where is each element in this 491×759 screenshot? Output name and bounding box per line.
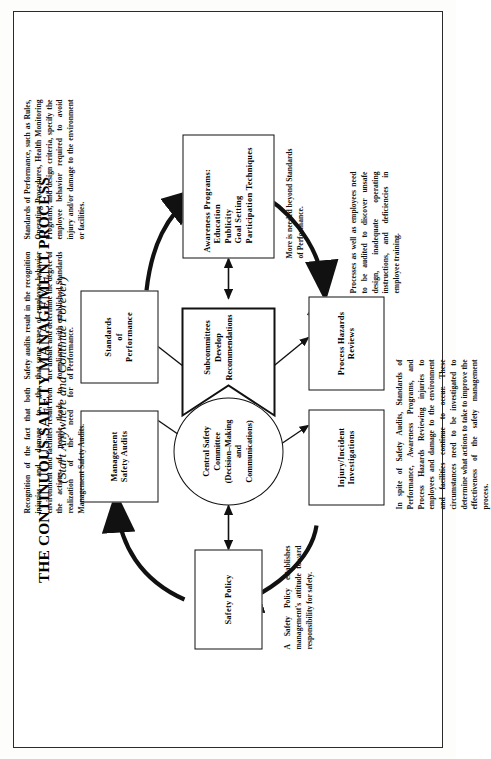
note-standards-compliance: Safety audits result in the recognition … xyxy=(22,251,76,379)
node-awareness-line1: Awareness Programs: xyxy=(202,168,213,252)
node-awareness-line2: Education xyxy=(212,204,223,252)
note-awareness-programs: More is needed beyond Standards of Perfo… xyxy=(284,148,306,258)
node-awareness-line5: Participation Techniques xyxy=(244,147,255,252)
node-central-safety-committee[interactable]: Central Safety Committee (Decision–Makin… xyxy=(173,397,283,505)
node-committee-line1: Central Safety xyxy=(201,426,212,477)
arrow-policy-to-audits xyxy=(116,502,184,599)
node-committee-line3: (Decision–Making xyxy=(223,419,234,483)
node-management-safety-audits-line1: Management xyxy=(109,431,120,481)
node-subcommittees-line3: Recommendations xyxy=(224,314,233,380)
node-injury-incident-investigations[interactable]: Injury/Incident Investigations xyxy=(308,409,384,505)
node-safety-policy[interactable]: Safety Policy xyxy=(194,549,262,649)
node-committee-line4: and xyxy=(233,444,244,457)
page-border-frame: THE CONTINUOUS SAFETY MANAGEMENT PROCESS… xyxy=(13,11,443,748)
node-committee-line5: Communications) xyxy=(244,420,255,482)
node-committee-line2: Committee xyxy=(212,432,223,471)
note-injury-incident: In spite of Safety Audits, Standards of … xyxy=(394,359,491,509)
node-standards-line1: Standards xyxy=(103,317,114,356)
node-management-safety-audits[interactable]: Management Safety Audits xyxy=(80,410,158,502)
note-process-hazards: Processes as well as employees need to b… xyxy=(348,171,402,293)
node-standards-line3: Performance xyxy=(124,312,135,362)
node-subcommittees[interactable]: Subcommittees Develop Recommendations xyxy=(202,301,235,393)
node-subcommittees-line2: Develop xyxy=(213,333,222,362)
node-management-safety-audits-line2: Safety Audits xyxy=(119,430,130,482)
diagram-canvas: THE CONTINUOUS SAFETY MANAGEMENT PROCESS… xyxy=(16,14,440,745)
node-process-line2: Reviews xyxy=(346,327,357,358)
node-awareness-line4: Goal Setting xyxy=(233,195,244,252)
node-standards-of-performance[interactable]: Standards of Performance xyxy=(80,290,158,383)
node-safety-policy-line1: Safety Policy xyxy=(223,574,234,624)
note-management-audits: Recognition of the fact that both injuri… xyxy=(22,387,87,513)
node-injury-line1: Injury/Incident xyxy=(336,427,347,487)
node-subcommittees-line1: Subcommittees xyxy=(202,320,211,374)
note-standards-definition: Standards of Performance, such as Rules,… xyxy=(22,99,87,239)
node-process-hazards-reviews[interactable]: Process Hazards Reviews xyxy=(308,296,384,390)
node-awareness-programs[interactable]: Awareness Programs: Education Publicity … xyxy=(182,134,274,258)
node-standards-line2: of xyxy=(114,333,125,341)
node-injury-line2: Investigations xyxy=(346,430,357,484)
note-safety-policy: A Safety Policy establishes management's… xyxy=(282,545,314,649)
node-process-line1: Process Hazards xyxy=(336,311,347,375)
node-awareness-line3: Publicity xyxy=(223,208,234,252)
rotated-diagram-wrapper: THE CONTINUOUS SAFETY MANAGEMENT PROCESS… xyxy=(16,14,440,745)
